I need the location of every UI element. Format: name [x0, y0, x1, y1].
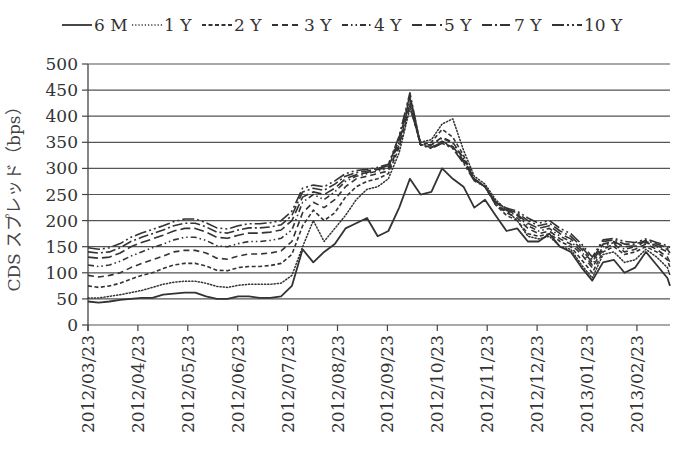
chart-gridlines	[88, 64, 670, 325]
legend-label: 7 Y	[514, 15, 542, 35]
x-tick-label: 2012/09/23	[377, 335, 397, 433]
y-tick-label: 350	[46, 132, 78, 152]
y-tick-label: 500	[46, 54, 78, 74]
y-tick-label: 50	[56, 289, 78, 309]
series-line-2y	[88, 106, 670, 288]
legend-label: 1 Y	[164, 15, 192, 35]
x-tick-label: 2012/05/23	[178, 335, 198, 433]
legend-label: 4 Y	[374, 15, 402, 35]
legend-label: 6 M	[94, 15, 128, 35]
series-line-10y	[88, 93, 670, 257]
x-tick-label: 2013/02/23	[627, 335, 647, 433]
series-line-4y	[88, 101, 670, 267]
y-axis-label: CDS スプレッド（bps）	[4, 98, 24, 291]
x-tick-label: 2012/10/23	[427, 335, 447, 433]
x-tick-label: 2012/08/23	[328, 335, 348, 433]
y-tick-label: 400	[46, 106, 78, 126]
x-tick-label: 2012/07/23	[278, 335, 298, 433]
cds-spread-chart: 6 M1 Y2 Y3 Y4 Y5 Y7 Y10 Y 05010015020025…	[0, 0, 680, 462]
chart-series	[88, 93, 670, 303]
legend-label: 2 Y	[234, 15, 262, 35]
legend-label: 3 Y	[304, 15, 332, 35]
x-tick-label: 2012/12/23	[527, 335, 547, 433]
y-tick-label: 300	[46, 158, 78, 178]
y-tick-label: 0	[67, 315, 78, 335]
y-tick-label: 100	[46, 263, 78, 283]
x-tick-label: 2012/11/23	[477, 335, 497, 433]
legend-label: 5 Y	[444, 15, 472, 35]
x-tick-label: 2012/03/23	[78, 335, 98, 433]
y-tick-label: 150	[46, 237, 78, 257]
y-axis: 050100150200250300350400450500	[46, 54, 88, 335]
y-tick-label: 250	[46, 185, 78, 205]
series-line-5y	[88, 98, 670, 263]
y-tick-label: 200	[46, 211, 78, 231]
x-tick-label: 2012/04/23	[128, 335, 148, 433]
y-tick-label: 450	[46, 80, 78, 100]
chart-legend: 6 M1 Y2 Y3 Y4 Y5 Y7 Y10 Y	[62, 15, 623, 35]
x-axis: 2012/03/232012/04/232012/05/232012/06/23…	[78, 325, 647, 433]
x-tick-label: 2013/01/23	[577, 335, 597, 433]
legend-label: 10 Y	[584, 15, 623, 35]
x-tick-label: 2012/06/23	[228, 335, 248, 433]
